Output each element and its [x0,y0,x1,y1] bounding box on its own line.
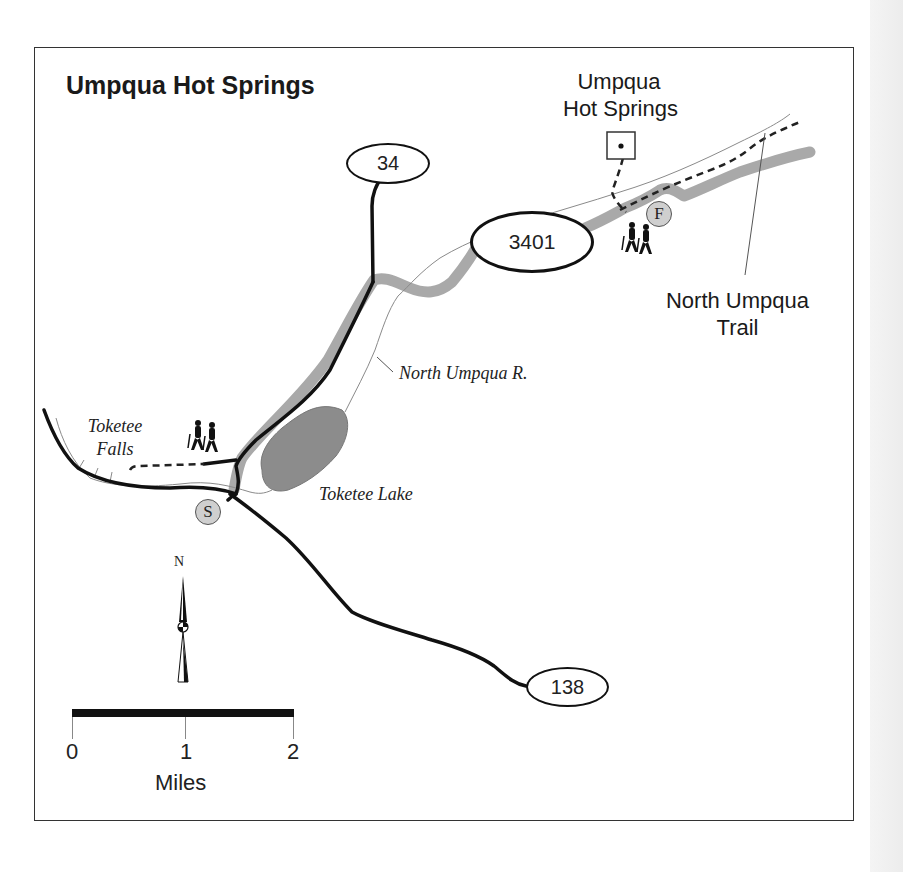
start-marker: S [195,499,221,525]
trail-label-line2: Trail [640,314,835,341]
toketee-falls-trail [130,464,204,470]
scale-label-2: 2 [287,739,299,765]
spur-road [204,460,236,464]
road-shield-3401: 3401 [470,211,594,273]
toketee-lake-label: Toketee Lake [319,483,413,506]
scale-unit: Miles [155,770,206,796]
hot-spring-icon [607,132,635,159]
road-shield-138: 138 [526,667,609,707]
river-label: North Umpqua R. [399,362,528,385]
hot-springs-label: Umpqua Hot Springs [563,68,675,122]
road-138-line [230,494,526,686]
hot-springs-label-line1: Umpqua [563,68,675,95]
scale-tick-1 [185,717,186,739]
scale-tick-2 [293,717,294,739]
toketee-falls-label: Toketee Falls [80,415,150,461]
map-title: Umpqua Hot Springs [66,71,315,100]
trail-label-line1: North Umpqua [640,287,835,314]
scale-tick-0 [72,717,73,739]
north-umpqua-trail-label: North Umpqua Trail [640,287,835,341]
north-label: N [174,554,184,570]
scale-label-0: 0 [66,739,78,765]
finish-marker: F [646,201,672,227]
scale-label-1: 1 [180,739,192,765]
north-arrow-icon [178,576,188,682]
road-shield-34: 34 [346,143,430,184]
toketee-falls-line1: Toketee [80,415,150,438]
road-34-line [372,176,382,282]
toketee-falls-line2: Falls [80,438,150,461]
scale-bar [72,709,294,717]
hot-springs-label-line2: Hot Springs [563,95,675,122]
